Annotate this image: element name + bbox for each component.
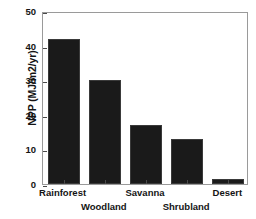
y-axis-tick-labels: 01020304050 <box>0 0 36 219</box>
bar <box>130 125 162 184</box>
y-axis-tick-mark <box>43 82 47 83</box>
y-axis-tick-label: 40 <box>2 42 36 52</box>
x-axis-tick-mark <box>146 180 147 184</box>
x-axis-category-label: Rainforest <box>39 188 86 198</box>
y-axis-tick-mark <box>43 13 47 14</box>
x-axis-tick-mark <box>187 180 188 184</box>
y-axis-tick-mark <box>43 48 47 49</box>
y-axis-tick-label: 20 <box>2 111 36 121</box>
x-axis-category-label: Shrubland <box>163 202 210 212</box>
y-axis-tick-mark <box>43 151 47 152</box>
bar <box>48 39 80 184</box>
x-axis-tick-mark <box>228 180 229 184</box>
y-axis-tick-mark <box>43 117 47 118</box>
bar-chart-figure: NPP (MJ/m2/yr) 01020304050 RainforestWoo… <box>0 0 256 219</box>
y-axis-tick-label: 10 <box>2 146 36 156</box>
x-axis-category-label: Woodland <box>81 202 127 212</box>
x-axis-category-labels: RainforestWoodlandSavannaShrublandDesert <box>42 185 248 219</box>
plot-area <box>42 12 248 185</box>
x-axis-category-label: Savanna <box>125 188 164 198</box>
y-axis-tick-label: 50 <box>2 7 36 17</box>
bar <box>171 139 203 184</box>
x-axis-category-label: Desert <box>213 188 243 198</box>
y-axis-tick-label: 0 <box>2 180 36 190</box>
plot-inner <box>43 13 247 184</box>
x-axis-tick-mark <box>105 180 106 184</box>
x-axis-tick-mark <box>64 180 65 184</box>
y-axis-tick-label: 30 <box>2 76 36 86</box>
bar <box>89 80 121 184</box>
